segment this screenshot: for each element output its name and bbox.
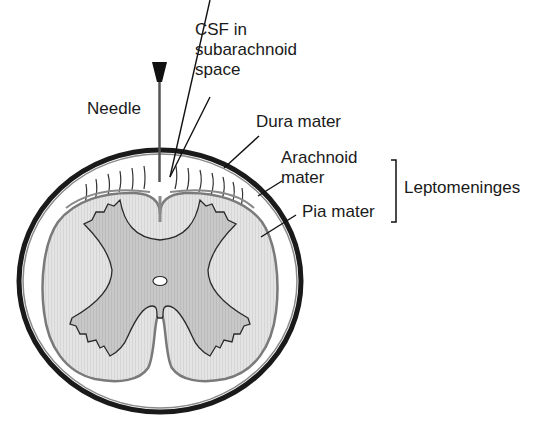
central-canal — [153, 277, 167, 286]
label-csf: CSF in subarachnoid space — [195, 20, 297, 80]
label-leptomeninges: Leptomeninges — [404, 178, 520, 198]
leptomeninges-bracket — [391, 160, 396, 222]
dura-leader — [224, 136, 259, 168]
label-dura-mater: Dura mater — [256, 112, 341, 132]
label-needle: Needle — [87, 99, 141, 119]
label-pia-mater: Pia mater — [302, 202, 375, 222]
label-arachnoid-mater: Arachnoid mater — [281, 148, 358, 188]
